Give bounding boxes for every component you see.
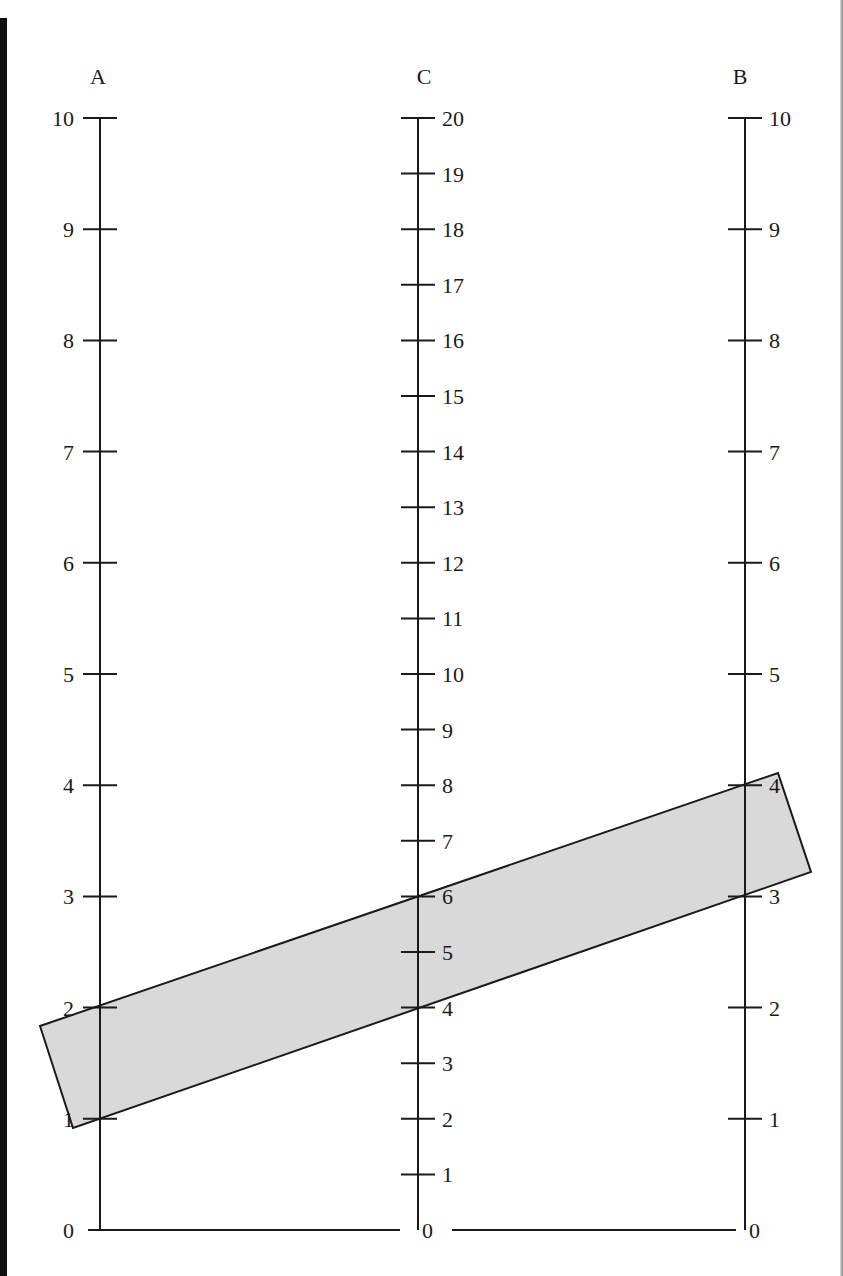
tick-label-a-3: 3 bbox=[63, 884, 74, 909]
tick-label-c-19: 19 bbox=[442, 162, 464, 187]
tick-label-c-14: 14 bbox=[442, 440, 464, 465]
tick-label-b-7: 7 bbox=[769, 440, 780, 465]
tick-label-c-15: 15 bbox=[442, 384, 464, 409]
tick-label-a-1: 1 bbox=[63, 1107, 74, 1132]
tick-label-b-1: 1 bbox=[769, 1107, 780, 1132]
tick-label-c-20: 20 bbox=[442, 106, 464, 131]
tick-label-a-4: 4 bbox=[63, 773, 74, 798]
tick-label-c-5: 5 bbox=[442, 940, 453, 965]
tick-label-c-16: 16 bbox=[442, 328, 464, 353]
tick-label-b-2: 2 bbox=[769, 996, 780, 1021]
axis-b-title: B bbox=[733, 64, 748, 89]
tick-label-c-17: 17 bbox=[442, 273, 464, 298]
tick-label-b-5: 5 bbox=[769, 662, 780, 687]
tick-label-a-5: 5 bbox=[63, 662, 74, 687]
tick-label-b-8: 8 bbox=[769, 328, 780, 353]
tick-label-b-3: 3 bbox=[769, 884, 780, 909]
axis-c-title: C bbox=[417, 64, 432, 89]
tick-label-a-8: 8 bbox=[63, 328, 74, 353]
tick-label-b-9: 9 bbox=[769, 217, 780, 242]
tick-label-c-3: 3 bbox=[442, 1051, 453, 1076]
nomogram: A012345678910C01234567891011121314151617… bbox=[0, 0, 843, 1276]
tick-label-c-1: 1 bbox=[442, 1162, 453, 1187]
tick-label-c-8: 8 bbox=[442, 773, 453, 798]
tick-label-b-0: 0 bbox=[749, 1218, 760, 1243]
tick-label-c-7: 7 bbox=[442, 829, 453, 854]
axis-a-title: A bbox=[90, 64, 106, 89]
tick-label-c-18: 18 bbox=[442, 217, 464, 242]
tick-label-c-10: 10 bbox=[442, 662, 464, 687]
tick-label-b-10: 10 bbox=[769, 106, 791, 131]
tick-label-c-2: 2 bbox=[442, 1107, 453, 1132]
tick-label-a-10: 10 bbox=[52, 106, 74, 131]
tick-label-a-9: 9 bbox=[63, 217, 74, 242]
tick-label-a-7: 7 bbox=[63, 440, 74, 465]
tick-label-c-4: 4 bbox=[442, 996, 453, 1021]
tick-label-b-6: 6 bbox=[769, 551, 780, 576]
tick-label-c-11: 11 bbox=[442, 606, 463, 631]
tick-label-a-6: 6 bbox=[63, 551, 74, 576]
tick-label-c-0: 0 bbox=[422, 1218, 433, 1243]
tick-label-c-6: 6 bbox=[442, 884, 453, 909]
straightedge-band[interactable] bbox=[40, 773, 811, 1128]
tick-label-c-13: 13 bbox=[442, 495, 464, 520]
tick-label-c-9: 9 bbox=[442, 718, 453, 743]
tick-label-b-4: 4 bbox=[769, 773, 780, 798]
tick-label-c-12: 12 bbox=[442, 551, 464, 576]
tick-label-a-2: 2 bbox=[63, 996, 74, 1021]
tick-label-a-0: 0 bbox=[63, 1218, 74, 1243]
